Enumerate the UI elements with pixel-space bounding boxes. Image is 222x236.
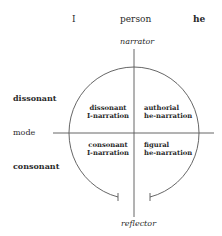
mode-label: mode — [13, 129, 35, 137]
quadrant-line1: consonant — [86, 141, 130, 149]
quadrant-line1: authorial — [144, 104, 188, 112]
quadrant-line2: he-narration — [144, 149, 188, 157]
quadrant-line2: I-narration — [86, 112, 130, 120]
quadrant-consonant-i-narration: consonant I-narration — [86, 141, 130, 158]
person-label-i: I — [72, 15, 76, 24]
quadrant-line1: dissonant — [86, 104, 130, 112]
quadrant-figural-he-narration: figural he-narration — [144, 141, 188, 158]
narrator-label: narrator — [120, 38, 154, 46]
dissonant-label: dissonant — [13, 94, 57, 102]
quadrant-line1: figural — [144, 141, 188, 149]
reflector-label: reflector — [121, 220, 156, 228]
person-label-he: he — [193, 15, 205, 24]
quadrant-line2: he-narration — [144, 112, 188, 120]
quadrant-line2: I-narration — [86, 149, 130, 157]
quadrant-dissonant-i-narration: dissonant I-narration — [86, 104, 130, 121]
quadrant-authorial-he-narration: authorial he-narration — [144, 104, 188, 121]
person-label: person — [120, 15, 151, 24]
consonant-label: consonant — [13, 162, 59, 170]
